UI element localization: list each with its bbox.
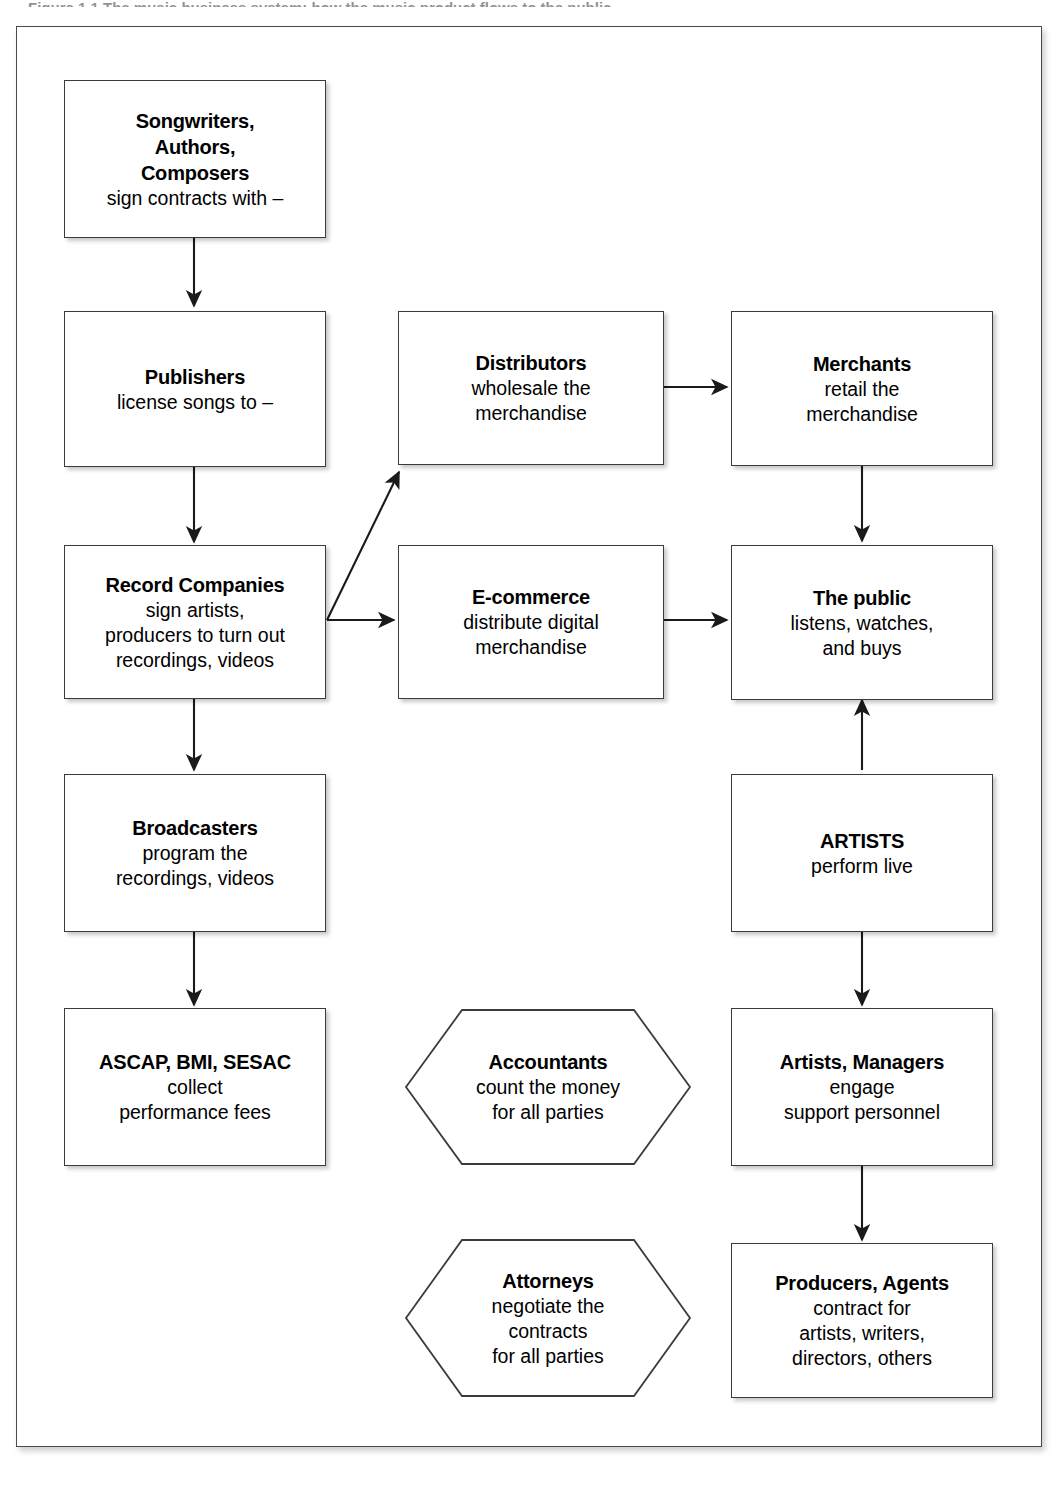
node-the-public[interactable]: The public listens, watches, and buys [731, 545, 993, 700]
node-publishers-subtitle: license songs to – [117, 390, 273, 415]
node-broadcasters[interactable]: Broadcasters program the recordings, vid… [64, 774, 326, 932]
node-ecommerce-subtitle: distribute digital merchandise [463, 610, 599, 660]
node-ascap-bmi-sesac-title: ASCAP, BMI, SESAC [99, 1049, 291, 1075]
node-distributors-title: Distributors [476, 350, 587, 376]
node-publishers-title: Publishers [145, 364, 245, 390]
node-artists[interactable]: ARTISTS perform live [731, 774, 993, 932]
node-producers-agents[interactable]: Producers, Agents contract for artists, … [731, 1243, 993, 1398]
node-record-companies-title: Record Companies [105, 572, 284, 598]
node-artists-title: ARTISTS [820, 828, 904, 854]
node-ascap-bmi-sesac[interactable]: ASCAP, BMI, SESAC collect performance fe… [64, 1008, 326, 1166]
node-songwriters[interactable]: Songwriters, Authors, Composers sign con… [64, 80, 326, 238]
node-artists-managers-subtitle: engage support personnel [784, 1075, 940, 1125]
node-the-public-subtitle: listens, watches, and buys [790, 611, 933, 661]
node-ecommerce[interactable]: E-commerce distribute digital merchandis… [398, 545, 664, 699]
node-record-companies[interactable]: Record Companies sign artists, producers… [64, 545, 326, 699]
node-the-public-title: The public [813, 585, 911, 611]
node-artists-managers[interactable]: Artists, Managers engage support personn… [731, 1008, 993, 1166]
node-broadcasters-title: Broadcasters [132, 815, 257, 841]
node-broadcasters-subtitle: program the recordings, videos [116, 841, 274, 891]
node-merchants-subtitle: retail the merchandise [806, 377, 918, 427]
node-merchants-title: Merchants [813, 351, 911, 377]
node-attorneys-title: Attorneys [502, 1268, 594, 1294]
node-songwriters-subtitle: sign contracts with – [107, 186, 284, 211]
node-producers-agents-subtitle: contract for artists, writers, directors… [792, 1296, 932, 1371]
node-producers-agents-title: Producers, Agents [775, 1270, 949, 1296]
node-attorneys[interactable]: Attorneys negotiate the contracts for al… [404, 1238, 692, 1398]
node-publishers[interactable]: Publishers license songs to – [64, 311, 326, 467]
node-artists-subtitle: perform live [811, 854, 913, 879]
node-attorneys-subtitle: negotiate the contracts for all parties [492, 1294, 605, 1369]
node-accountants[interactable]: Accountants count the money for all part… [404, 1008, 692, 1166]
figure-frame [16, 26, 1042, 1447]
figure-caption: Figure 1.1 The music business system: ho… [28, 0, 1038, 7]
node-merchants[interactable]: Merchants retail the merchandise [731, 311, 993, 466]
node-artists-managers-title: Artists, Managers [780, 1049, 944, 1075]
node-accountants-subtitle: count the money for all parties [476, 1075, 620, 1125]
node-songwriters-title: Songwriters, Authors, Composers [136, 108, 255, 186]
node-distributors[interactable]: Distributors wholesale the merchandise [398, 311, 664, 465]
node-accountants-title: Accountants [489, 1049, 608, 1075]
node-ecommerce-title: E-commerce [472, 584, 590, 610]
node-distributors-subtitle: wholesale the merchandise [471, 376, 590, 426]
node-ascap-bmi-sesac-subtitle: collect performance fees [119, 1075, 271, 1125]
node-record-companies-subtitle: sign artists, producers to turn out reco… [105, 598, 285, 673]
